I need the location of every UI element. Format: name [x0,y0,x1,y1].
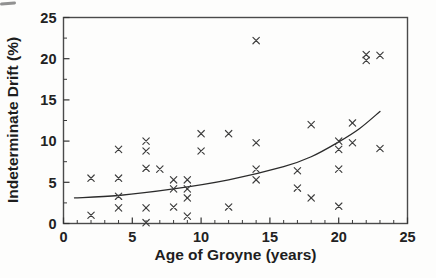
data-point-marker [294,168,300,174]
data-point-marker [143,148,149,154]
x-tick-label: 10 [193,229,209,245]
y-tick-label: 0 [48,216,56,232]
data-point-marker [115,146,121,152]
data-point-marker [336,203,342,209]
data-point-marker [88,175,94,181]
data-point-marker [349,140,355,146]
data-point-marker [253,177,259,183]
data-point-marker [308,195,314,201]
y-tick-label: 25 [40,10,56,26]
data-point-marker [336,146,342,152]
y-tick-label: 20 [40,51,56,67]
data-point-marker [308,121,314,127]
data-point-marker [170,204,176,210]
scatter-figure: 05101520250510152025 Age of Groyne (year… [0,0,436,278]
data-point-marker [294,185,300,191]
data-point-marker [170,177,176,183]
data-point-marker [184,195,190,201]
data-point-marker [143,205,149,211]
data-point-marker [88,212,94,218]
data-point-marker [198,148,204,154]
y-tick-label: 10 [40,133,56,149]
trend-line [75,111,380,198]
data-point-marker [157,166,163,172]
x-tick-label: 0 [59,229,67,245]
x-tick-label: 15 [262,229,278,245]
data-point-marker [115,205,121,211]
y-tick-label: 5 [48,175,56,191]
data-point-marker [225,204,231,210]
data-point-marker [253,140,259,146]
data-point-marker [198,130,204,136]
chart-canvas: 05101520250510152025 [0,0,436,278]
data-point-marker [336,166,342,172]
data-point-marker [184,177,190,183]
data-point-marker [184,213,190,219]
data-point-marker [349,120,355,126]
data-point-marker [363,57,369,63]
x-tick-label: 5 [128,229,136,245]
x-axis-title: Age of Groyne (years) [63,246,408,264]
y-axis-title: Indeterminate Drift (%) [4,17,22,223]
data-point-marker [377,52,383,58]
y-tick-label: 15 [40,92,56,108]
data-point-marker [143,165,149,171]
x-tick-label: 25 [399,229,415,245]
data-point-marker [377,145,383,151]
data-point-marker [253,37,259,43]
x-tick-label: 20 [331,229,347,245]
data-point-marker [143,138,149,144]
data-point-marker [253,166,259,172]
data-point-marker [115,175,121,181]
data-point-marker [363,51,369,57]
data-point-marker [225,130,231,136]
